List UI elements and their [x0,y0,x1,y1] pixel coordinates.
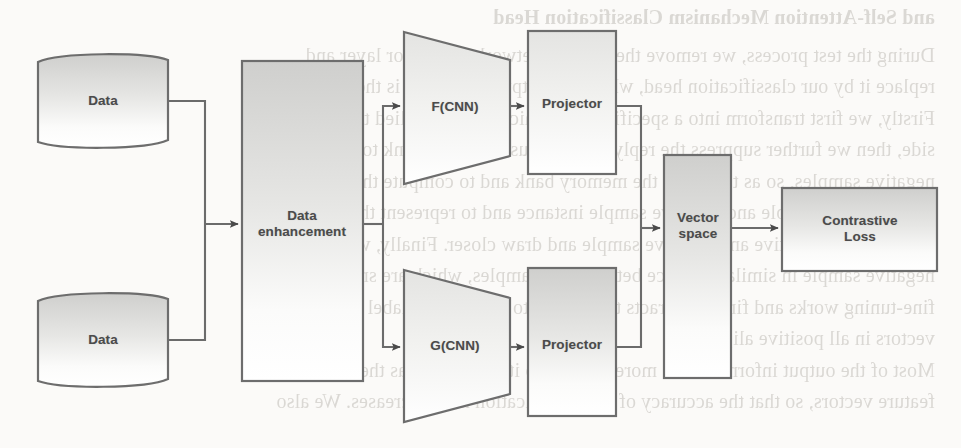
figure-page: and Self-Attention Mechanism Classificat… [0,0,961,448]
node-label-g-cnn: G(CNN) [430,338,479,354]
node-label-contrastive-loss: Contrastive Loss [810,213,911,245]
node-label-data-bottom: Data [88,332,118,348]
edge-split-to-fcnn [383,106,400,224]
node-label-projector-top: Projector [542,96,602,112]
node-vector-space[interactable] [664,155,731,378]
node-label-data-top: Data [88,93,118,109]
node-label-data-enhancement: Data enhancement [258,208,346,240]
node-label-projector-bottom: Projector [542,337,602,353]
architecture-diagram: Data Data Data enhancement F(CNN) G(CNN)… [0,0,961,448]
node-label-f-cnn: F(CNN) [431,99,478,115]
edge-data-top-to-enhancement [168,101,205,224]
edge-projector-top-to-merge [616,106,641,228]
edge-split-to-gcnn [383,224,400,347]
edge-projector-bottom-to-merge [616,228,641,347]
nodes-layer [38,31,937,422]
edge-data-bottom-to-enhancement [168,224,205,340]
node-label-vector-space: Vector space [677,210,719,242]
